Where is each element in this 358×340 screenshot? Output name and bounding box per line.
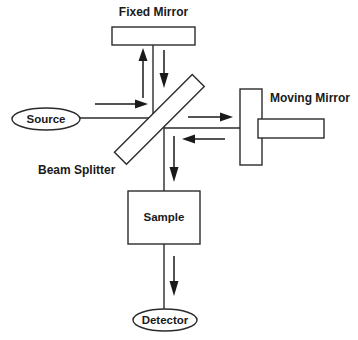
- arrow-fixed-mirror-to-splitter: [160, 50, 169, 88]
- arrow-splitter-to-moving-mirror: [188, 113, 233, 122]
- arrow-splitter-to-sample: [170, 136, 179, 182]
- moving-mirror-shaft: [258, 119, 324, 138]
- fixed-mirror-label: Fixed Mirror: [119, 5, 189, 19]
- beam-splitter-label: Beam Splitter: [38, 163, 116, 177]
- diagram-canvas: Fixed Mirror Beam Splitter Source Moving…: [0, 0, 358, 340]
- arrow-moving-mirror-to-splitter: [182, 135, 225, 144]
- arrow-source-to-splitter: [95, 100, 148, 109]
- interferometer-diagram: Fixed Mirror Beam Splitter Source Moving…: [0, 0, 358, 340]
- source-label: Source: [27, 113, 66, 125]
- moving-mirror-label: Moving Mirror: [270, 91, 350, 105]
- arrow-splitter-to-fixed-mirror: [139, 48, 148, 98]
- beam-splitter-shape: [114, 74, 204, 164]
- fixed-mirror-shape: [112, 27, 195, 45]
- sample-label: Sample: [144, 211, 185, 223]
- beam-splitter-group: [114, 74, 204, 164]
- detector-label: Detector: [142, 314, 189, 326]
- arrow-sample-to-detector: [170, 256, 179, 296]
